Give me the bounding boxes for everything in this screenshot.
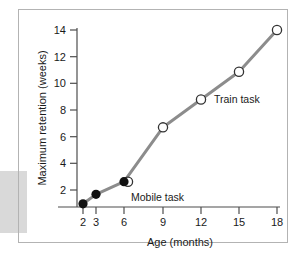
data-point-markers	[78, 25, 281, 208]
marker-open-9	[158, 123, 167, 132]
x-tick-label-15: 15	[233, 216, 245, 228]
x-tick-label-3: 3	[93, 216, 99, 228]
y-tick-label-12: 12	[54, 51, 66, 63]
x-tick-label-9: 9	[160, 216, 166, 228]
y-axis-ticks	[70, 30, 77, 190]
annotation-mobile-task: Mobile task	[131, 191, 185, 203]
y-axis-title: Maximum retention (weeks)	[36, 50, 48, 185]
y-tick-label-2: 2	[60, 184, 66, 196]
y-axis-tick-labels: 14 12 10 8 6 4 2	[54, 24, 66, 196]
marker-filled-3	[91, 190, 100, 199]
y-tick-label-14: 14	[54, 24, 66, 36]
x-tick-label-12: 12	[195, 216, 207, 228]
marker-open-15	[234, 67, 243, 76]
marker-open-18	[272, 25, 281, 34]
marker-open-12	[196, 95, 205, 104]
x-tick-label-18: 18	[271, 216, 283, 228]
marker-filled-6	[119, 177, 128, 186]
retention-line-chart: 14 12 10 8 6 4 2 2 3 6 9 12 15 18	[0, 0, 294, 254]
data-line	[83, 30, 277, 204]
y-tick-label-10: 10	[54, 77, 66, 89]
x-tick-label-6: 6	[121, 216, 127, 228]
x-axis-title: Age (months)	[147, 236, 213, 248]
y-tick-label-8: 8	[60, 104, 66, 116]
x-axis-ticks	[83, 207, 277, 214]
figure-root: 14 12 10 8 6 4 2 2 3 6 9 12 15 18	[0, 0, 294, 254]
x-tick-label-2: 2	[80, 216, 86, 228]
x-axis-tick-labels: 2 3 6 9 12 15 18	[80, 216, 283, 228]
marker-filled-2	[78, 199, 87, 208]
annotation-train-task: Train task	[214, 93, 260, 105]
y-tick-label-6: 6	[60, 131, 66, 143]
y-tick-label-4: 4	[60, 157, 66, 169]
